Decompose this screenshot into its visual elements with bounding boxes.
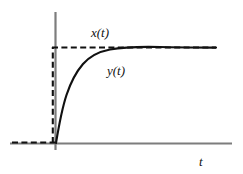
plot-canvas	[0, 0, 243, 174]
t-axis-label: t	[199, 155, 203, 168]
output-signal-label: y(t)	[107, 64, 125, 77]
step-response-figure: x(t) y(t) t	[0, 0, 243, 174]
output-signal-curve	[56, 47, 216, 143]
input-signal-label: x(t)	[91, 26, 109, 39]
